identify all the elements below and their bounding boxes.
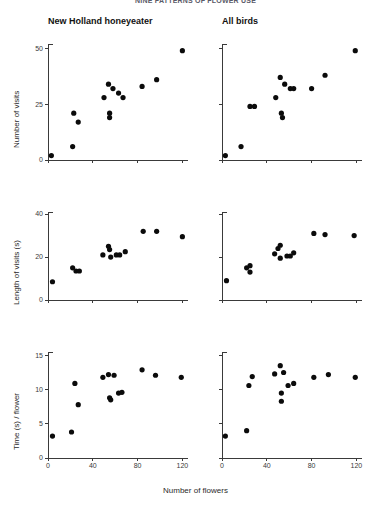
data-point-group bbox=[223, 48, 358, 158]
scatter-plot-time-honeyeater: 05101504080120 bbox=[26, 346, 202, 476]
svg-text:50: 50 bbox=[35, 45, 43, 52]
data-point bbox=[72, 381, 77, 386]
panel-column-title-left: New Holland honeyeater bbox=[48, 16, 153, 26]
data-point bbox=[285, 383, 290, 388]
data-point bbox=[70, 144, 75, 149]
data-point bbox=[273, 95, 278, 100]
data-point-group bbox=[49, 48, 185, 158]
data-point bbox=[311, 231, 316, 236]
svg-text:40: 40 bbox=[35, 210, 43, 217]
svg-text:80: 80 bbox=[308, 462, 316, 469]
svg-text:5: 5 bbox=[39, 420, 43, 427]
data-point bbox=[108, 397, 113, 402]
figure-container: NINE PATTERNS OF FLOWER USE New Holland … bbox=[0, 0, 391, 509]
data-point bbox=[326, 372, 331, 377]
data-point bbox=[291, 250, 296, 255]
data-point bbox=[291, 381, 296, 386]
data-point bbox=[223, 153, 228, 158]
y-axis-label-time-per-flower: Time (s) / flower bbox=[12, 393, 21, 450]
svg-text:40: 40 bbox=[263, 462, 271, 469]
data-point-group bbox=[50, 229, 185, 285]
data-point bbox=[117, 252, 122, 257]
data-point bbox=[252, 104, 257, 109]
scatter-plot-time-allbirds: 04080120 bbox=[200, 346, 376, 476]
data-point bbox=[154, 229, 159, 234]
data-point bbox=[224, 278, 229, 283]
svg-text:0: 0 bbox=[39, 296, 43, 303]
data-point bbox=[272, 251, 277, 256]
data-point bbox=[107, 115, 112, 120]
data-point bbox=[71, 111, 76, 116]
scatter-plot-visits-allbirds bbox=[200, 38, 376, 178]
data-point bbox=[309, 86, 314, 91]
data-point bbox=[139, 84, 144, 89]
data-point bbox=[247, 104, 252, 109]
svg-text:0: 0 bbox=[46, 462, 50, 469]
data-point bbox=[223, 434, 228, 439]
svg-text:10: 10 bbox=[35, 386, 43, 393]
data-point bbox=[69, 429, 74, 434]
data-point bbox=[119, 390, 124, 395]
data-point bbox=[154, 77, 159, 82]
data-point bbox=[107, 111, 112, 116]
data-point bbox=[272, 371, 277, 376]
data-point bbox=[76, 402, 81, 407]
data-point bbox=[278, 256, 283, 261]
data-point bbox=[238, 144, 243, 149]
data-point bbox=[322, 232, 327, 237]
data-point bbox=[279, 399, 284, 404]
svg-text:0: 0 bbox=[220, 462, 224, 469]
svg-text:0: 0 bbox=[39, 156, 43, 163]
panel-column-title-right: All birds bbox=[222, 16, 258, 26]
svg-text:40: 40 bbox=[89, 462, 97, 469]
data-point bbox=[291, 86, 296, 91]
svg-text:80: 80 bbox=[134, 462, 142, 469]
data-point bbox=[50, 279, 55, 284]
data-point-group bbox=[224, 231, 357, 283]
data-point bbox=[111, 373, 116, 378]
data-point bbox=[100, 375, 105, 380]
data-point bbox=[353, 48, 358, 53]
data-point bbox=[101, 95, 106, 100]
data-point bbox=[279, 390, 284, 395]
data-point bbox=[279, 111, 284, 116]
data-point bbox=[282, 82, 287, 87]
data-point bbox=[180, 234, 185, 239]
svg-text:25: 25 bbox=[35, 101, 43, 108]
data-point bbox=[322, 73, 327, 78]
x-axis-label-number-of-flowers: Number of flowers bbox=[0, 486, 391, 495]
data-point bbox=[247, 263, 252, 268]
svg-text:15: 15 bbox=[35, 352, 43, 359]
scatter-plot-length-allbirds bbox=[200, 206, 376, 318]
svg-text:20: 20 bbox=[35, 253, 43, 260]
data-point bbox=[76, 119, 81, 124]
data-point bbox=[353, 375, 358, 380]
data-point bbox=[77, 268, 82, 273]
data-point bbox=[139, 367, 144, 372]
data-point bbox=[281, 370, 286, 375]
data-point bbox=[120, 95, 125, 100]
svg-text:120: 120 bbox=[177, 462, 189, 469]
scatter-plot-length-honeyeater: 02040 bbox=[26, 206, 202, 318]
data-point bbox=[280, 115, 285, 120]
data-point-group bbox=[223, 363, 358, 439]
svg-text:0: 0 bbox=[39, 454, 43, 461]
data-point bbox=[246, 383, 251, 388]
data-point bbox=[108, 254, 113, 259]
data-point bbox=[278, 75, 283, 80]
data-point bbox=[247, 269, 252, 274]
data-point bbox=[244, 428, 249, 433]
y-axis-label-number-of-visits: Number of visits bbox=[12, 91, 21, 148]
y-axis-label-length-of-visits: Length of visits (s) bbox=[12, 240, 21, 305]
data-point bbox=[278, 243, 283, 248]
data-point bbox=[49, 153, 54, 158]
data-point-group bbox=[50, 367, 184, 439]
data-point bbox=[116, 90, 121, 95]
data-point bbox=[50, 434, 55, 439]
data-point bbox=[141, 229, 146, 234]
svg-text:120: 120 bbox=[351, 462, 363, 469]
data-point bbox=[106, 82, 111, 87]
data-point bbox=[100, 252, 105, 257]
data-point bbox=[180, 48, 185, 53]
scatter-plot-visits-honeyeater: 02550 bbox=[26, 38, 202, 178]
